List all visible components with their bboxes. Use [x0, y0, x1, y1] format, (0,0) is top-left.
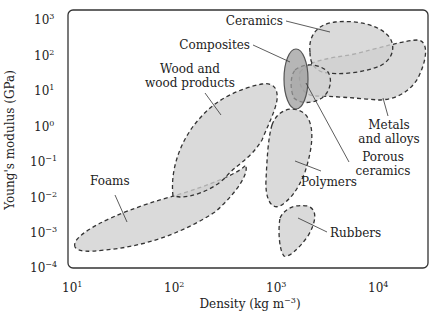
label-ceramics: Ceramics — [226, 14, 283, 28]
ashby-chart: Foams Wood and wood products Composites … — [0, 0, 438, 317]
label-porous-line2: ceramics — [356, 164, 411, 178]
x-tick: 104 — [368, 280, 388, 295]
region-rubbers — [279, 206, 315, 257]
region-polymers — [266, 109, 312, 207]
label-foams: Foams — [90, 174, 130, 188]
label-composites: Composites — [179, 38, 250, 52]
y-tick: 10−2 — [30, 190, 57, 205]
y-tick: 100 — [34, 119, 54, 134]
y-tick: 10−1 — [30, 154, 57, 169]
x-tick: 101 — [62, 280, 82, 295]
y-tick: 103 — [34, 12, 54, 27]
y-tick: 102 — [34, 48, 54, 63]
region-ceramics — [310, 22, 393, 74]
label-polymers: Polymers — [301, 175, 357, 189]
label-rubbers: Rubbers — [330, 226, 381, 240]
x-axis-label: Density (kg m−3) — [199, 296, 300, 311]
x-tick: 103 — [266, 280, 286, 295]
label-metals-line2: and alloys — [358, 132, 419, 146]
label-wood-line1: Wood and — [160, 62, 220, 76]
label-wood-line2: wood products — [145, 76, 235, 90]
y-tick: 101 — [34, 83, 54, 98]
label-metals-line1: Metals — [368, 118, 409, 132]
label-porous-line1: Porous — [362, 150, 404, 164]
y-tick-labels: 103 102 101 100 10−1 10−2 10−3 10−4 — [30, 12, 57, 275]
y-tick: 10−4 — [30, 260, 57, 275]
y-axis-label: Young's modulus (GPa) — [3, 70, 17, 211]
y-tick: 10−3 — [30, 225, 57, 240]
x-tick: 102 — [164, 280, 184, 295]
region-composites — [284, 49, 308, 109]
x-tick-labels: 101 102 103 104 — [62, 280, 388, 295]
